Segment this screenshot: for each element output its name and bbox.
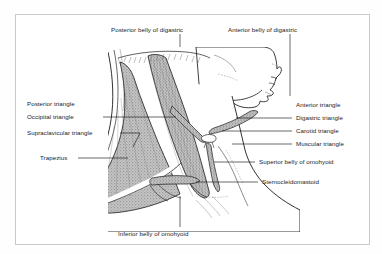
- anatomy-figure: Posterior belly of digastric Anterior be…: [0, 0, 382, 254]
- label-inferior-belly-of-omohyoid: Inferior belly of omohyoid: [118, 231, 188, 237]
- label-occipital-triangle: Occipital triangle: [27, 114, 74, 120]
- label-digastric-triangle: Digastric triangle: [296, 115, 343, 121]
- label-trapezius: Trapezius: [40, 155, 67, 161]
- label-posterior-belly-of-digastric: Posterior belly of digastric: [111, 27, 183, 33]
- label-superior-belly-of-omohyoid: Superior belly of omohyoid: [259, 159, 334, 165]
- label-supraclavicular-triangle: Supraclavicular triangle: [27, 130, 93, 136]
- label-sternocleidomastoid: Sternocleidomastoid: [262, 179, 319, 185]
- label-carotid-triangle: Carotid triangle: [296, 128, 339, 134]
- label-muscular-triangle: Muscular triangle: [296, 141, 344, 147]
- label-posterior-triangle: Posterior triangle: [27, 101, 75, 107]
- body-group: [72, 47, 300, 232]
- label-anterior-triangle: Anterior triangle: [296, 102, 341, 108]
- label-anterior-belly-of-digastric: Anterior belly of digastric: [228, 27, 297, 33]
